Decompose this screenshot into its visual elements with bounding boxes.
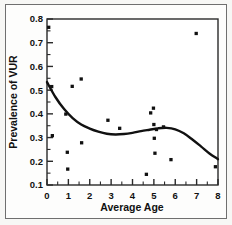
x-tick-label: 1 [66,190,72,201]
x-tick-label: 0 [44,190,49,201]
data-point [195,32,198,35]
data-point [71,85,74,88]
y-tick-label: 0.7 [30,37,43,48]
data-point [66,151,69,154]
x-axis-tick-labels: 012345678 [44,190,220,201]
data-point [47,26,50,29]
y-axis-tick-labels: 0.10.20.30.40.50.60.70.8 [30,13,44,190]
data-point [145,173,148,176]
data-point [162,125,165,128]
data-point [106,119,109,122]
y-tick-label: 0.6 [30,61,43,72]
data-point [64,112,67,115]
data-point [214,165,217,168]
figure-container: 012345678 0.10.20.30.40.50.60.70.8 Avera… [0,0,232,225]
data-point [118,127,121,130]
data-point [155,128,158,131]
x-tick-label: 5 [151,190,157,201]
data-point [153,137,156,140]
data-point [50,85,53,88]
y-tick-label: 0.2 [30,156,43,167]
plot-area-frame [47,19,218,185]
x-axis-title: Average Age [100,201,164,213]
data-point [169,158,172,161]
x-tick-label: 3 [108,190,113,201]
y-tick-label: 0.4 [30,108,44,119]
y-tick-label: 0.3 [30,132,43,143]
y-tick-label: 0.5 [30,85,44,96]
y-axis-title: Prevalence of VUR [7,55,19,149]
data-point [152,107,155,110]
data-point [149,111,152,114]
data-point [80,141,83,144]
scatter-plot: 012345678 0.10.20.30.40.50.60.70.8 Avera… [0,0,232,225]
data-point [80,77,83,80]
data-point [152,123,155,126]
data-point [51,134,54,137]
x-tick-label: 4 [130,190,136,201]
y-tick-label: 0.8 [30,13,43,24]
x-tick-label: 6 [173,190,178,201]
plot-frame [47,19,218,185]
y-tick-label: 0.1 [30,179,44,190]
data-point [66,167,69,170]
x-tick-label: 7 [194,190,199,201]
data-point [153,152,156,155]
x-tick-label: 2 [87,190,92,201]
x-tick-label: 8 [215,190,220,201]
